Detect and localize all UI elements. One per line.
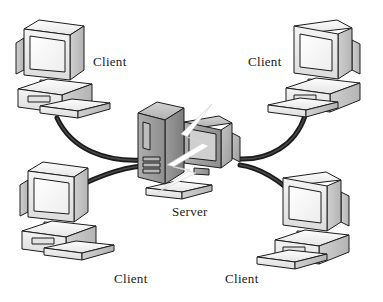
- link-top-left-cable: [57, 118, 143, 160]
- monitor-icon: [16, 20, 84, 88]
- server-keyboard-icon: [146, 181, 212, 199]
- client-top-left[interactable]: Client: [16, 20, 127, 118]
- client-top-left-label: Client: [93, 54, 127, 69]
- monitor-icon: [283, 172, 349, 239]
- client-top-right-label: Client: [248, 54, 282, 69]
- monitor-icon: [294, 20, 360, 87]
- client-bottom-left[interactable]: Client: [20, 162, 148, 286]
- network-diagram: Client Client: [0, 0, 383, 302]
- client-bottom-right-label: Client: [225, 271, 259, 286]
- monitor-icon: [20, 162, 88, 230]
- client-bottom-left-label: Client: [114, 271, 148, 286]
- server-center[interactable]: Server: [138, 102, 240, 219]
- server-tower-icon: [138, 102, 184, 184]
- keyboard-icon: [257, 250, 327, 269]
- server-label: Server: [172, 204, 208, 219]
- keyboard-icon: [268, 98, 338, 117]
- client-bottom-right[interactable]: Client: [225, 172, 349, 286]
- diagram-canvas: Client Client: [0, 0, 383, 302]
- client-top-right[interactable]: Client: [248, 20, 360, 117]
